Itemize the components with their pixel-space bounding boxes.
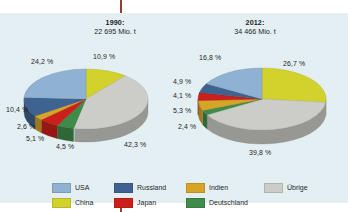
legend-item-japan[interactable]: Japan — [114, 196, 186, 209]
pie-chart-2012 — [190, 61, 342, 149]
chart-title-2012-total: 34 466 Mio. t — [195, 28, 315, 36]
pie-slice-usa[interactable] — [24, 69, 86, 99]
legend-item-deutschland[interactable]: Deutschland — [186, 196, 264, 209]
pct-1990-deutschland: 4,5 % — [56, 143, 74, 150]
legend-item-label: China — [75, 199, 93, 206]
pct-1990-japan: 5,1 % — [26, 135, 44, 142]
legend-item-china[interactable]: China — [52, 196, 114, 209]
legend-item-label: USA — [75, 184, 89, 191]
pct-2012-russland: 4,9 % — [173, 78, 191, 85]
legend-swatch-icon — [186, 183, 205, 193]
chart-title-2012-year: 2012: — [195, 19, 315, 27]
legend-item-indien[interactable]: Indien — [186, 181, 264, 194]
legend-swatch-icon — [114, 198, 133, 208]
pct-1990-uebrige: 42,3 % — [124, 141, 146, 148]
legend-swatch-icon — [52, 198, 71, 208]
legend-item-label: Russland — [137, 184, 166, 191]
legend-item-label: Japan — [137, 199, 156, 206]
chart-legend: USARusslandIndienÜbrigeChinaJapanDeutsch… — [52, 181, 318, 209]
legend-item-label: Übrige — [287, 184, 308, 191]
chart-panel: 1990: 22 695 Mio. t 2012: 34 466 Mio. t … — [0, 13, 348, 203]
legend-swatch-icon — [52, 183, 71, 193]
legend-swatch-icon — [114, 183, 133, 193]
pct-2012-japan: 4,1 % — [173, 92, 191, 99]
legend-item-russland[interactable]: Russland — [114, 181, 186, 194]
legend-swatch-icon — [264, 183, 283, 193]
pct-2012-deutschland: 2,4 % — [178, 123, 196, 130]
chart-title-1990-year: 1990: — [55, 19, 175, 27]
legend-item-label: Indien — [209, 184, 228, 191]
legend-item-usa[interactable]: USA — [52, 181, 114, 194]
pct-2012-uebrige: 39,8 % — [249, 149, 271, 156]
chart-title-1990-total: 22 695 Mio. t — [55, 28, 175, 36]
pct-2012-usa: 16,8 % — [199, 54, 221, 61]
pct-2012-china: 26,7 % — [283, 60, 305, 67]
bleed-mark-top — [120, 0, 122, 13]
chart-title-1990: 1990: 22 695 Mio. t — [55, 19, 175, 37]
pct-1990-russland: 10,4 % — [6, 106, 28, 113]
pie-1990-slices — [24, 69, 148, 129]
pct-1990-indien: 2,6 % — [17, 123, 35, 130]
pie-chart-2012-svg — [190, 61, 342, 149]
pie-slice-china[interactable] — [262, 68, 326, 102]
pct-1990-china: 10,9 % — [93, 53, 115, 60]
legend-item-brige[interactable]: Übrige — [264, 181, 318, 194]
pct-2012-indien: 5,3 % — [173, 107, 191, 114]
pct-1990-usa: 24,2 % — [31, 58, 53, 65]
legend-swatch-icon — [186, 198, 205, 208]
legend-item-label: Deutschland — [209, 199, 248, 206]
pie-2012-slices — [198, 68, 326, 130]
chart-figure: 1990: 22 695 Mio. t 2012: 34 466 Mio. t … — [0, 0, 348, 212]
chart-title-2012: 2012: 34 466 Mio. t — [195, 19, 315, 37]
